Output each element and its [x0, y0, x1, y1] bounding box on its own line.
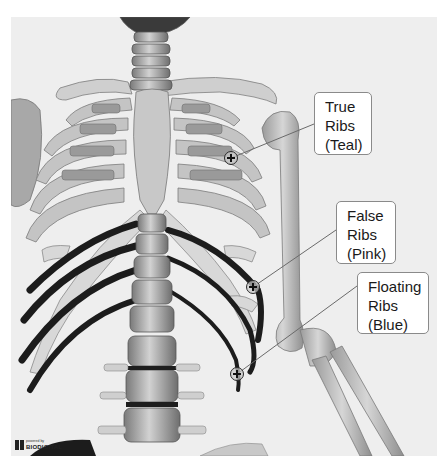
- biodigital-logo: powered by BIODIGITAL: [15, 439, 62, 450]
- sternum: [134, 89, 171, 214]
- hotspot-marker-floating-ribs[interactable]: [230, 367, 244, 381]
- hotspot-marker-false-ribs[interactable]: [246, 280, 260, 294]
- callout-line: Ribs: [325, 116, 371, 135]
- hotspot-marker-true-ribs[interactable]: [224, 151, 238, 165]
- callout-line: Ribs: [347, 225, 395, 244]
- callout-true-ribs: True Ribs (Teal): [314, 92, 372, 155]
- callout-line: True: [325, 97, 371, 116]
- callout-floating-ribs: Floating Ribs (Blue): [357, 272, 429, 334]
- callout-line: (Pink): [347, 244, 395, 263]
- biodigital-logo-icon: [15, 440, 24, 450]
- callout-line: Ribs: [368, 296, 428, 315]
- callout-line: Floating: [368, 277, 428, 296]
- callout-line: False: [347, 206, 395, 225]
- callout-line: (Teal): [325, 135, 371, 154]
- logo-brand: BIODIGITAL: [26, 444, 62, 450]
- callout-line: (Blue): [368, 315, 428, 334]
- callout-false-ribs: False Ribs (Pink): [336, 201, 396, 264]
